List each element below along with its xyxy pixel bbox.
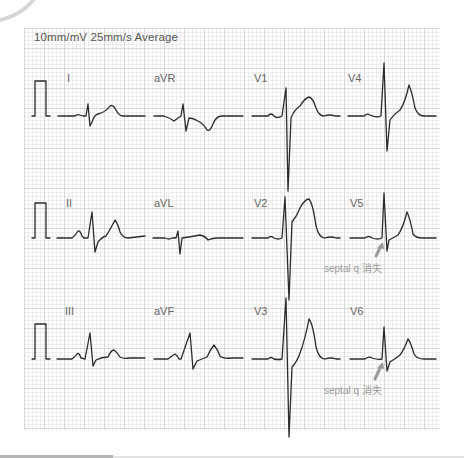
calibration-pulse-row3 (32, 324, 50, 359)
trace-lead-III (57, 333, 145, 366)
trace-lead-V1 (252, 88, 340, 191)
trace-lead-aVR (154, 104, 243, 131)
trace-lead-V2 (252, 197, 340, 300)
ecg-traces (0, 0, 464, 458)
trace-lead-aVF (154, 333, 243, 369)
trace-lead-I (58, 104, 145, 126)
trace-lead-aVL (153, 231, 243, 254)
trace-lead-V5 (350, 193, 436, 251)
trace-lead-V6 (350, 327, 436, 371)
trace-lead-II (57, 212, 145, 252)
trace-lead-V4 (348, 63, 436, 151)
arrowhead-v6 (377, 362, 384, 369)
arrowhead-v5 (377, 242, 384, 249)
calibration-pulse-row1 (32, 81, 50, 116)
trace-lead-V3 (252, 298, 340, 437)
calibration-pulse-row2 (32, 203, 50, 238)
